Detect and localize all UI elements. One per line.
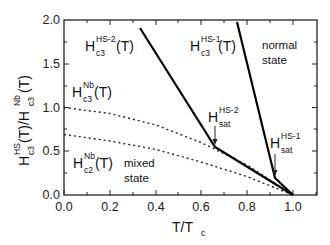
svg-text:c3: c3 <box>26 97 36 106</box>
y-axis-label: H HS c3 (T)/H Nb c3 (T) <box>12 75 36 166</box>
x-tick-label: 1.0 <box>284 200 301 214</box>
x-tick-labels: 0.0 0.2 0.4 0.6 0.8 1.0 <box>55 200 301 214</box>
y-tick-labels: 0.0 0.5 1.0 1.5 2.0 <box>43 13 60 202</box>
svg-text:sat: sat <box>219 119 231 129</box>
svg-text:c: c <box>201 228 206 238</box>
svg-text:(T): (T) <box>116 38 134 54</box>
x-tick-label: 0.4 <box>147 200 164 214</box>
svg-text:state: state <box>124 172 149 184</box>
label-hc3-hs1: H HS-1 c3 (T) <box>190 34 236 58</box>
svg-text:(T): (T) <box>94 84 112 100</box>
x-axis-label: T/T c <box>172 219 206 238</box>
svg-text:Nb: Nb <box>83 80 94 90</box>
svg-text:(T)/H: (T)/H <box>16 111 32 143</box>
svg-text:HS-2: HS-2 <box>96 34 116 44</box>
label-normal-state: normal state <box>262 39 297 66</box>
label-hc2-nb: H Nb c2 (T) <box>73 151 113 175</box>
svg-text:sat: sat <box>281 145 293 155</box>
svg-text:(T): (T) <box>95 155 113 171</box>
svg-text:c2: c2 <box>84 165 93 175</box>
x-tick-label: 0.2 <box>101 200 118 214</box>
label-hsat-hs2: H HS-2 sat <box>208 105 239 129</box>
svg-text:H: H <box>73 155 83 171</box>
svg-text:HS-1: HS-1 <box>281 131 301 141</box>
svg-text:H: H <box>190 38 200 54</box>
x-tick-label: 0.6 <box>192 200 209 214</box>
svg-text:Nb: Nb <box>12 95 22 106</box>
svg-text:HS-2: HS-2 <box>219 105 239 115</box>
label-mixed-state: mixed state <box>124 157 155 184</box>
svg-text:H: H <box>208 109 218 125</box>
svg-text:Nb: Nb <box>84 151 95 161</box>
svg-text:c3: c3 <box>96 48 105 58</box>
label-hc3-hs2: H HS-2 c3 (T) <box>85 34 134 58</box>
svg-text:(T): (T) <box>218 38 236 54</box>
y-tick-label: 0.0 <box>43 188 60 202</box>
svg-text:H: H <box>16 156 32 166</box>
svg-text:normal: normal <box>262 39 297 51</box>
svg-text:H: H <box>270 135 280 151</box>
x-tick-label: 0.0 <box>55 200 72 214</box>
svg-text:HS: HS <box>12 143 22 155</box>
arrow-hsat-hs2 <box>213 126 218 145</box>
svg-text:H: H <box>85 38 95 54</box>
svg-text:T/T: T/T <box>172 219 193 235</box>
svg-text:state: state <box>262 54 287 66</box>
label-hsat-hs1: H HS-1 sat <box>270 131 301 155</box>
svg-text:H: H <box>72 84 82 100</box>
phase-diagram-chart: 0.0 0.2 0.4 0.6 0.8 1.0 0.0 0.5 1.0 1.5 … <box>0 0 330 245</box>
svg-text:mixed: mixed <box>124 157 155 169</box>
x-tick-label: 0.8 <box>238 200 255 214</box>
svg-text:(T): (T) <box>16 75 32 93</box>
label-hc3-nb: H Nb c3 (T) <box>72 80 112 104</box>
y-tick-label: 1.5 <box>43 57 60 71</box>
y-tick-label: 2.0 <box>43 13 60 27</box>
svg-text:c3: c3 <box>201 48 210 58</box>
svg-text:c3: c3 <box>83 94 92 104</box>
y-tick-label: 0.5 <box>43 144 60 158</box>
svg-text:c3: c3 <box>26 146 36 155</box>
y-tick-label: 1.0 <box>43 101 60 115</box>
